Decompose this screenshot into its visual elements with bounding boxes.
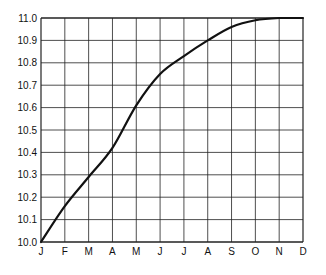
line-chart: 10.010.110.210.310.410.510.610.710.810.9… <box>0 0 326 275</box>
x-axis-tick-labels: JFMAMJJASOND <box>39 246 307 257</box>
y-tick-label: 10.5 <box>18 125 38 136</box>
y-axis-tick-labels: 10.010.110.210.310.410.510.610.710.810.9… <box>18 13 38 248</box>
x-tick-label: O <box>251 246 259 257</box>
y-tick-label: 10.0 <box>18 237 38 248</box>
x-tick-label: A <box>204 246 211 257</box>
y-tick-label: 10.1 <box>18 214 38 225</box>
x-tick-label: D <box>299 246 306 257</box>
y-tick-label: 10.3 <box>18 169 38 180</box>
y-tick-label: 10.7 <box>18 80 38 91</box>
y-tick-label: 11.0 <box>18 13 37 24</box>
x-tick-label: J <box>181 246 186 257</box>
y-tick-label: 10.2 <box>18 192 38 203</box>
x-tick-label: N <box>276 246 283 257</box>
y-tick-label: 10.4 <box>18 147 38 158</box>
x-tick-label: S <box>228 246 235 257</box>
x-tick-label: J <box>158 246 163 257</box>
y-tick-label: 10.9 <box>18 35 38 46</box>
x-tick-label: M <box>84 246 92 257</box>
x-tick-label: F <box>62 246 68 257</box>
x-tick-label: A <box>109 246 116 257</box>
y-tick-label: 10.6 <box>18 102 38 113</box>
grid-lines <box>41 18 303 242</box>
x-tick-label: J <box>39 246 44 257</box>
y-tick-label: 10.8 <box>18 57 38 68</box>
x-tick-label: M <box>132 246 140 257</box>
